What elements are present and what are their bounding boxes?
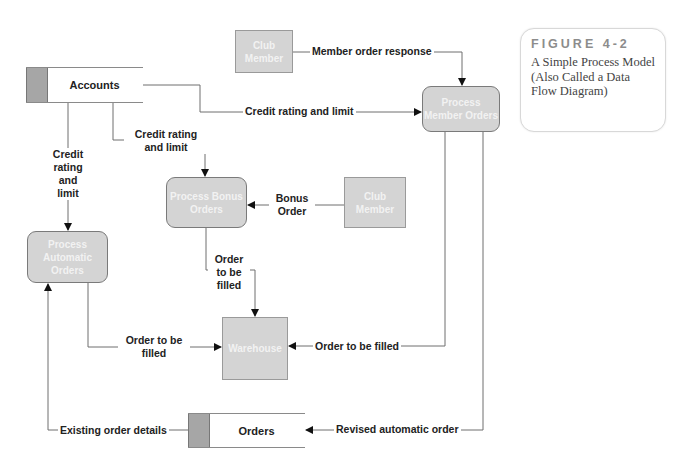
figure-description: A Simple Process Model (Also Called a Da… — [531, 55, 655, 99]
entity-club-member-top[interactable]: Club Member — [235, 30, 293, 73]
flow-label-member-order-response: Member order response — [310, 45, 434, 58]
flow-label-order-auto: Order to be filled — [118, 334, 190, 360]
process-label: Process Automatic Orders — [28, 238, 107, 277]
figure-caption: FIGURE 4-2 A Simple Process Model (Also … — [520, 28, 666, 132]
entity-club-member-right[interactable]: Club Member — [344, 177, 406, 228]
entity-warehouse[interactable]: Warehouse — [222, 317, 288, 380]
data-store-accounts[interactable]: Accounts — [26, 67, 143, 103]
flow-label-credit-auto: Credit rating and limit — [46, 148, 90, 200]
flow-label-order-bonus: Order to be filled — [208, 253, 250, 292]
process-member-orders[interactable]: Process Member Orders — [422, 86, 500, 132]
flow-label-order-member: Order to be filled — [313, 340, 401, 353]
flow-label-revised-automatic-order: Revised automatic order — [334, 423, 461, 436]
data-store-tab — [188, 414, 210, 447]
flow-label-existing-order-details: Existing order details — [58, 424, 169, 437]
data-store-orders[interactable]: Orders — [188, 413, 305, 448]
entity-label: Club Member — [236, 39, 292, 65]
process-automatic-orders[interactable]: Process Automatic Orders — [27, 231, 108, 283]
data-store-label: Orders — [208, 414, 305, 447]
entity-label: Warehouse — [228, 342, 282, 355]
flow-label-credit-member: Credit rating and limit — [243, 105, 356, 118]
process-label: Process Member Orders — [423, 96, 499, 122]
figure-label: FIGURE 4-2 — [531, 37, 655, 51]
flow-label-credit-bonus: Credit rating and limit — [124, 128, 208, 154]
data-store-tab — [26, 68, 48, 102]
entity-label: Club Member — [345, 190, 405, 216]
data-store-label: Accounts — [46, 68, 143, 102]
process-bonus-orders[interactable]: Process Bonus Orders — [166, 177, 247, 228]
data-flow-diagram: FIGURE 4-2 A Simple Process Model (Also … — [0, 0, 682, 473]
process-label: Process Bonus Orders — [167, 190, 246, 216]
flow-label-bonus-order: Bonus Order — [269, 192, 315, 218]
